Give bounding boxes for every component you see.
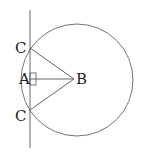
geometry-diagram: C A B C: [0, 0, 142, 158]
label-a: A: [18, 70, 30, 88]
label-b: B: [76, 70, 87, 88]
label-c-top: C: [15, 39, 26, 57]
label-c-bottom: C: [15, 107, 26, 125]
segment-c-bottom-b: [30, 79, 74, 110]
segment-c-top-b: [30, 48, 74, 79]
